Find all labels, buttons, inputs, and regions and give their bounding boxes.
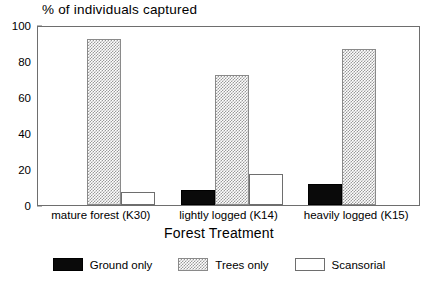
legend-label: Trees only <box>215 259 268 271</box>
bar-ground-3 <box>308 184 342 205</box>
bar-chart-figure: % of individuals captured 020406080100 F… <box>0 0 438 288</box>
y-axis-tick-label: 40 <box>18 128 31 140</box>
bar-trees-3 <box>342 49 376 205</box>
legend-swatch-scansorial <box>295 258 325 271</box>
legend-label: Scansorial <box>332 259 386 271</box>
legend-item-ground[interactable]: Ground only <box>53 258 153 271</box>
bar-scansorial-2 <box>249 174 283 206</box>
bar-ground-2 <box>181 190 215 205</box>
x-axis-category-label: lightly logged (K14) <box>179 209 277 221</box>
legend-label: Ground only <box>90 259 153 271</box>
legend-item-scansorial[interactable]: Scansorial <box>295 258 386 271</box>
plot-area <box>37 26 420 206</box>
y-axis-tick-label: 100 <box>12 20 31 32</box>
x-axis-category-label: mature forest (K30) <box>51 209 150 221</box>
y-axis-tick-label: 60 <box>18 92 31 104</box>
bar-trees-1 <box>87 39 121 206</box>
y-axis-tick-label: 80 <box>18 56 31 68</box>
bar-trees-2 <box>215 75 249 205</box>
chart-title: % of individuals captured <box>42 2 197 17</box>
bar-scansorial-1 <box>121 192 155 205</box>
y-axis: 020406080100 <box>0 26 37 206</box>
x-axis-category-label: heavily logged (K15) <box>304 209 409 221</box>
chart-legend: Ground onlyTrees onlyScansorial <box>0 258 438 271</box>
y-axis-tick-label: 0 <box>25 200 31 212</box>
y-axis-tick-label: 20 <box>18 164 31 176</box>
legend-swatch-ground <box>53 258 83 271</box>
legend-swatch-trees <box>178 258 208 271</box>
x-axis-title: Forest Treatment <box>0 225 438 241</box>
legend-item-trees[interactable]: Trees only <box>178 258 268 271</box>
